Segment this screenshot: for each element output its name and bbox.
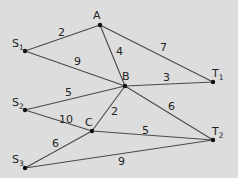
edge-weight-label: 10 [59, 113, 73, 126]
node-a [98, 23, 102, 27]
node-label-b: B [122, 70, 130, 83]
node-b [123, 84, 127, 88]
node-label-a: A [93, 9, 101, 22]
node-label-s3: S3 [12, 153, 24, 168]
node-subscript: 3 [19, 159, 24, 168]
node-t2 [211, 138, 215, 142]
node-label-t1: T1 [211, 67, 224, 82]
node-subscript: 1 [19, 43, 24, 52]
node-subscript: 2 [19, 102, 24, 111]
edge-weight-label: 7 [160, 41, 167, 54]
node-subscript: 2 [219, 131, 224, 140]
edge-weight-label: 9 [74, 55, 81, 68]
edge-weight-label: 4 [116, 45, 123, 58]
nodes-layer: AS1BT1S2CT2S3 [12, 9, 224, 170]
edge-weight-label: 5 [142, 124, 149, 137]
node-label-c: C [85, 116, 93, 129]
node-t1 [211, 80, 215, 84]
edge-weight-label: 2 [111, 105, 118, 118]
edge-weight-label: 9 [118, 155, 125, 168]
node-label-s2: S2 [12, 96, 24, 111]
network-graph: 2947351026569 AS1BT1S2CT2S3 [0, 0, 238, 178]
edge-b-t2 [125, 86, 213, 140]
edge-weight-label: 6 [52, 137, 59, 150]
edge-c-t2 [92, 131, 213, 140]
node-c [90, 129, 94, 133]
edge-weight-label: 2 [58, 26, 65, 39]
node-label-t2: T2 [211, 125, 224, 140]
edge-weight-label: 6 [168, 100, 175, 113]
edge-weight-label: 3 [163, 71, 170, 84]
edges-layer: 2947351026569 [25, 25, 213, 168]
node-subscript: 1 [219, 73, 224, 82]
edge-weight-label: 5 [65, 86, 72, 99]
node-label-s1: S1 [12, 37, 24, 52]
